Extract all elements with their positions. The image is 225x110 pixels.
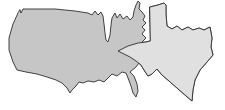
map-svg <box>0 0 225 110</box>
map-figure <box>0 0 225 110</box>
